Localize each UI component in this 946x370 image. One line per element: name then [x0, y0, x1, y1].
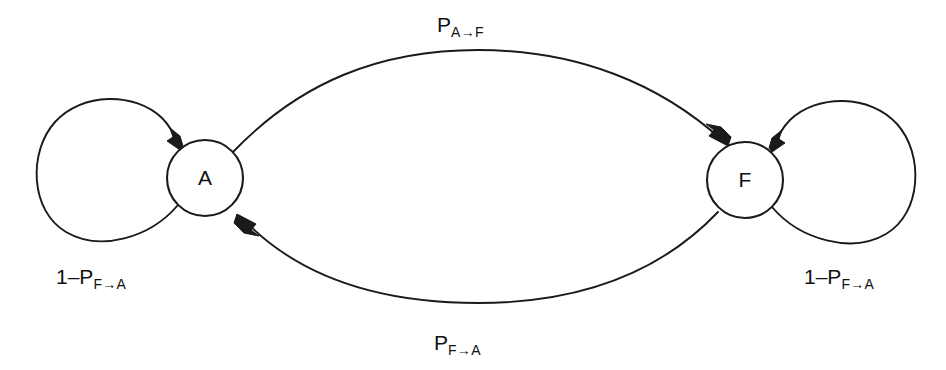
- edge-a-to-f: [233, 50, 731, 152]
- self-loop-f-path: [772, 101, 915, 243]
- node-f[interactable]: F: [707, 142, 783, 218]
- node-a[interactable]: A: [167, 140, 243, 216]
- edge-a-to-f-arrowhead: [706, 124, 731, 146]
- edge-label-self-loop-f-subscript: F→A: [841, 276, 874, 292]
- edge-label-f-to-a-subscript: F→A: [448, 342, 481, 358]
- self-loop-a-arrowhead: [167, 128, 183, 150]
- edge-label-self-loop-a: 1–PF→A: [56, 266, 126, 291]
- self-loop-f: [769, 101, 915, 243]
- node-f-label: F: [739, 168, 752, 191]
- self-loop-f-arrowhead: [769, 130, 785, 152]
- edge-label-self-loop-a-base: 1–P: [56, 265, 93, 288]
- edge-label-self-loop-a-subscript: F→A: [93, 276, 126, 292]
- edge-label-a-to-f-base: P: [437, 13, 451, 36]
- edge-f-to-a-arrowhead: [234, 214, 259, 236]
- edge-label-self-loop-f-base: 1–P: [804, 265, 841, 288]
- self-loop-a: [37, 99, 183, 241]
- node-a-label: A: [198, 166, 212, 189]
- edge-a-to-f-path: [233, 50, 722, 152]
- edge-label-f-to-a-base: P: [434, 331, 448, 354]
- edge-label-a-to-f-subscript: A→F: [451, 24, 484, 40]
- state-diagram-graphic: A F: [0, 0, 946, 370]
- state-diagram-canvas: A F PA→F PF→A 1–PF→A 1–PF→A: [0, 0, 946, 370]
- self-loop-a-path: [37, 99, 178, 241]
- edge-label-self-loop-f: 1–PF→A: [804, 266, 874, 291]
- edge-label-a-to-f: PA→F: [437, 14, 484, 39]
- edge-label-f-to-a: PF→A: [434, 332, 481, 357]
- edge-f-to-a-path: [244, 212, 718, 303]
- edge-f-to-a: [234, 212, 718, 303]
